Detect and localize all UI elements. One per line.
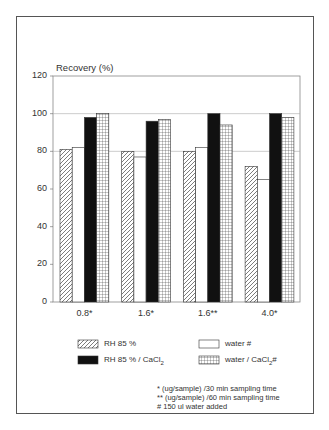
y-tick-label: 60 xyxy=(27,183,47,193)
footnote: * (ug/sample) /30 min sampling time xyxy=(157,384,280,393)
bar xyxy=(220,125,232,302)
bar xyxy=(183,151,195,302)
bar xyxy=(134,157,146,302)
bar xyxy=(84,117,96,302)
legend-label: water / CaCl xyxy=(225,355,269,364)
x-tick-label: 1.6** xyxy=(188,308,228,318)
bar xyxy=(97,114,109,302)
y-tick-label: 20 xyxy=(27,258,47,268)
plot-area xyxy=(50,76,300,302)
bar xyxy=(72,148,84,302)
bar xyxy=(282,117,294,302)
legend-label: RH 85 % xyxy=(104,339,136,348)
bar xyxy=(208,114,220,302)
y-tick-label: 120 xyxy=(27,70,47,80)
legend-label: water # xyxy=(225,339,251,348)
x-tick-label: 0.8* xyxy=(64,308,104,318)
bar xyxy=(122,151,134,302)
bar xyxy=(146,121,158,302)
legend-item-water: water # xyxy=(199,339,251,348)
bar-chart xyxy=(0,0,329,430)
legend-item-water-cacl2: water / CaCl2# xyxy=(199,355,277,366)
legend-item-rh85: RH 85 % xyxy=(78,339,136,348)
footnote: # 150 ul water added xyxy=(157,402,280,411)
y-tick-label: 80 xyxy=(27,145,47,155)
x-tick-label: 4.0* xyxy=(250,308,290,318)
footnotes: * (ug/sample) /30 min sampling time ** (… xyxy=(157,384,280,411)
x-tick-label: 1.6* xyxy=(126,308,166,318)
y-tick-label: 0 xyxy=(27,296,47,306)
legend-label: RH 85 % / CaCl xyxy=(104,355,160,364)
y-tick-label: 100 xyxy=(27,108,47,118)
bar xyxy=(270,114,282,302)
y-axis-label: Recovery (%) xyxy=(56,62,114,73)
bar xyxy=(257,180,269,302)
legend-item-rh85-cacl2: RH 85 % / CaCl2 xyxy=(78,355,164,366)
bar xyxy=(245,166,257,302)
footnote: ** (ug/sample) /60 min sampling time xyxy=(157,393,280,402)
bar xyxy=(158,119,170,302)
bar xyxy=(60,149,72,302)
bar xyxy=(196,148,208,302)
y-tick-label: 40 xyxy=(27,221,47,231)
